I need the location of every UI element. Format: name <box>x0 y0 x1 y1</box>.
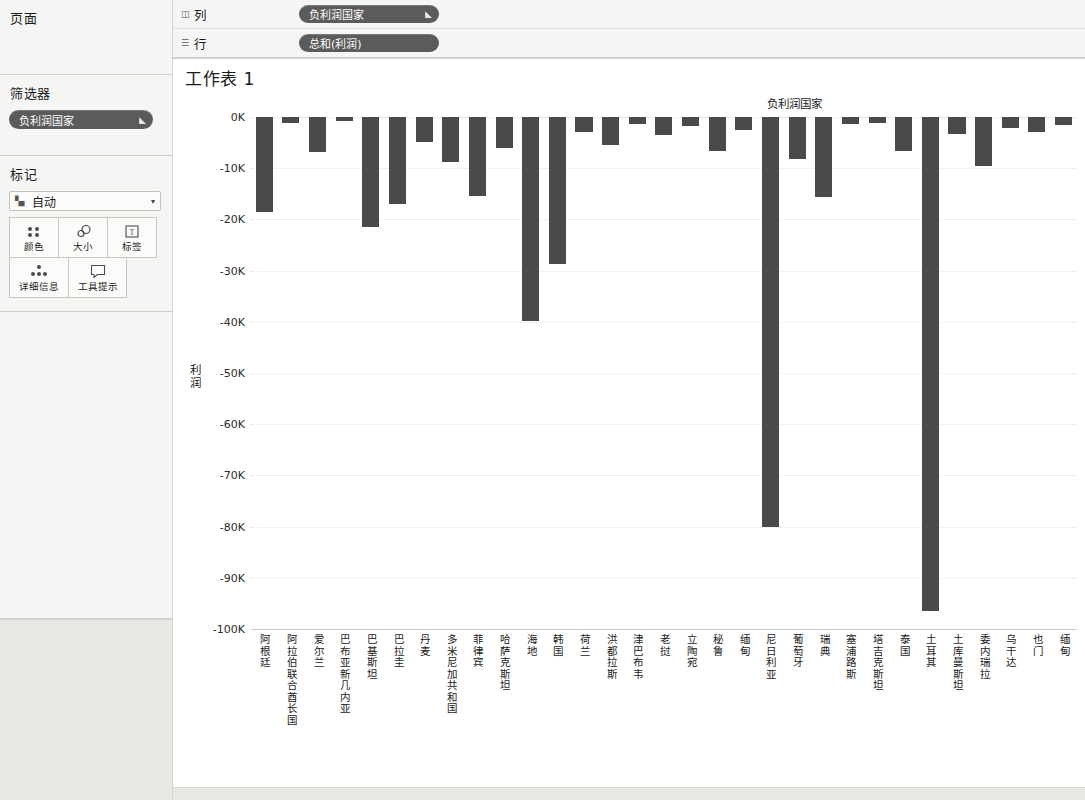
bar-column[interactable] <box>704 117 731 629</box>
x-axis-label-cell[interactable]: 阿根廷 <box>251 634 278 787</box>
bar-column[interactable] <box>1024 117 1051 629</box>
bar-column[interactable] <box>464 117 491 629</box>
bar[interactable] <box>1055 117 1072 125</box>
bar-column[interactable] <box>944 117 971 629</box>
x-axis-label-cell[interactable]: 泰国 <box>890 634 917 787</box>
bar-column[interactable] <box>331 117 358 629</box>
bar-column[interactable] <box>624 117 651 629</box>
columns-shelf[interactable]: ◫ 列 负利润国家 ◣ <box>173 0 1085 29</box>
bar[interactable] <box>602 117 619 145</box>
bar[interactable] <box>549 117 566 264</box>
bar-column[interactable] <box>384 117 411 629</box>
bar-column[interactable] <box>837 117 864 629</box>
mark-type-selector[interactable]: ▚▖ 自动 ▾ <box>9 191 161 211</box>
bar-column[interactable] <box>970 117 997 629</box>
x-axis-label-cell[interactable]: 缅甸 <box>731 634 758 787</box>
bar-column[interactable] <box>597 117 624 629</box>
bar[interactable] <box>362 117 379 227</box>
x-axis-label-cell[interactable]: 巴拉圭 <box>384 634 411 787</box>
filter-pill-negative-profit-country[interactable]: 负利润国家 ◣ <box>9 110 153 129</box>
bar-column[interactable] <box>544 117 571 629</box>
bar-column[interactable] <box>251 117 278 629</box>
x-axis-label-cell[interactable]: 韩国 <box>544 634 571 787</box>
marks-color-button[interactable]: 颜色 <box>9 217 59 258</box>
bar-column[interactable] <box>437 117 464 629</box>
bar[interactable] <box>762 117 779 527</box>
x-axis-label-cell[interactable]: 立陶宛 <box>677 634 704 787</box>
columns-pill-negative-profit-country[interactable]: 负利润国家 ◣ <box>299 5 439 23</box>
x-axis-label-cell[interactable]: 委内瑞拉 <box>970 634 997 787</box>
x-axis-label-cell[interactable]: 巴基斯坦 <box>358 634 385 787</box>
marks-detail-button[interactable]: 详细信息 <box>9 257 69 298</box>
x-axis-label-cell[interactable]: 塞浦路斯 <box>837 634 864 787</box>
bar[interactable] <box>895 117 912 151</box>
bar-column[interactable] <box>810 117 837 629</box>
x-axis-label-cell[interactable]: 洪都拉斯 <box>597 634 624 787</box>
bar[interactable] <box>575 117 592 132</box>
bar-column[interactable] <box>491 117 518 629</box>
bar-column[interactable] <box>757 117 784 629</box>
bar[interactable] <box>735 117 752 130</box>
bar[interactable] <box>975 117 992 166</box>
bar-column[interactable] <box>890 117 917 629</box>
bar[interactable] <box>682 117 699 126</box>
bar[interactable] <box>629 117 646 124</box>
x-axis-label-cell[interactable]: 缅甸 <box>1050 634 1077 787</box>
x-axis-label-cell[interactable]: 巴布亚新几内亚 <box>331 634 358 787</box>
bar[interactable] <box>948 117 965 134</box>
bar[interactable] <box>442 117 459 162</box>
x-axis-label-cell[interactable]: 菲律宾 <box>464 634 491 787</box>
x-axis-label-cell[interactable]: 哈萨克斯坦 <box>491 634 518 787</box>
pill-menu-icon[interactable]: ◣ <box>425 9 432 19</box>
bar-column[interactable] <box>411 117 438 629</box>
bar[interactable] <box>709 117 726 151</box>
bar-column[interactable] <box>677 117 704 629</box>
x-axis-label-cell[interactable]: 阿拉伯联合酋长国 <box>278 634 305 787</box>
bar[interactable] <box>922 117 939 611</box>
bar[interactable] <box>416 117 433 142</box>
x-axis-label-cell[interactable]: 葡萄牙 <box>784 634 811 787</box>
x-axis-label-cell[interactable]: 海地 <box>517 634 544 787</box>
bar[interactable] <box>336 117 353 121</box>
bar-column[interactable] <box>997 117 1024 629</box>
bar-column[interactable] <box>917 117 944 629</box>
bar-column[interactable] <box>278 117 305 629</box>
bar[interactable] <box>256 117 273 212</box>
x-axis-label-cell[interactable]: 津巴布韦 <box>624 634 651 787</box>
filter-pill-icon[interactable]: ◣ <box>139 115 146 125</box>
bar[interactable] <box>282 117 299 123</box>
bar[interactable] <box>522 117 539 321</box>
marks-tooltip-button[interactable]: 工具提示 <box>68 257 127 298</box>
bar[interactable] <box>496 117 513 148</box>
bar-column[interactable] <box>784 117 811 629</box>
x-axis-label-cell[interactable]: 乌干达 <box>997 634 1024 787</box>
bar[interactable] <box>789 117 806 159</box>
x-axis-label-cell[interactable]: 土库曼斯坦 <box>944 634 971 787</box>
marks-label-button[interactable]: T 标签 <box>107 217 157 258</box>
x-axis-label-cell[interactable]: 老挝 <box>651 634 678 787</box>
x-axis-label-cell[interactable]: 土耳其 <box>917 634 944 787</box>
bar-column[interactable] <box>731 117 758 629</box>
bar-column[interactable] <box>864 117 891 629</box>
bar-column[interactable] <box>517 117 544 629</box>
bar[interactable] <box>469 117 486 196</box>
bar[interactable] <box>309 117 326 152</box>
bar[interactable] <box>1002 117 1019 128</box>
bar[interactable] <box>389 117 406 204</box>
bar[interactable] <box>842 117 859 124</box>
x-axis-label-cell[interactable]: 丹麦 <box>411 634 438 787</box>
rows-shelf[interactable]: ☰ 行 总和(利润) <box>173 29 1085 58</box>
bar-column[interactable] <box>304 117 331 629</box>
bar[interactable] <box>1028 117 1045 132</box>
bar[interactable] <box>655 117 672 135</box>
x-axis-label-cell[interactable]: 尼日利亚 <box>757 634 784 787</box>
bar[interactable] <box>815 117 832 197</box>
x-axis-label-cell[interactable]: 秘鲁 <box>704 634 731 787</box>
bar[interactable] <box>869 117 886 123</box>
x-axis-label-cell[interactable]: 多米尼加共和国 <box>437 634 464 787</box>
x-axis-label-cell[interactable]: 也门 <box>1024 634 1051 787</box>
marks-size-button[interactable]: 大小 <box>58 217 108 258</box>
bar-column[interactable] <box>651 117 678 629</box>
bar-column[interactable] <box>358 117 385 629</box>
rows-pill-sum-profit[interactable]: 总和(利润) <box>299 34 439 52</box>
